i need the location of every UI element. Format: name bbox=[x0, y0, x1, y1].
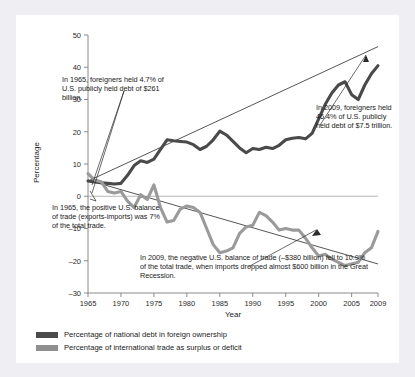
x-tick-label: 1965 bbox=[80, 299, 97, 308]
annotation-arrowheads bbox=[312, 55, 369, 236]
x-tick-label: 1975 bbox=[146, 299, 163, 308]
annotation-debt-1965: In 1965, foreigners held 4.7% of U.S. pu… bbox=[62, 75, 170, 103]
y-tick-label: 20 bbox=[73, 128, 81, 137]
legend-label-debt: Percentage of national debt in foreign o… bbox=[64, 330, 227, 339]
annotation-trade-2009: In 2009, the negative U.S. balance of tr… bbox=[140, 253, 372, 281]
legend-item: Percentage of international trade as sur… bbox=[36, 341, 386, 354]
legend-swatch-trade bbox=[36, 345, 58, 351]
y-tick-label: –30 bbox=[68, 289, 81, 298]
y-tick-label: 50 bbox=[73, 31, 81, 40]
x-tick-label: 2000 bbox=[310, 299, 327, 308]
y-tick-label: 10 bbox=[73, 160, 81, 169]
y-axis-title: Percentage bbox=[32, 142, 41, 183]
legend-item: Percentage of national debt in foreign o… bbox=[36, 328, 386, 341]
x-axis-ticks: 1965197019751980198519901995200020052009 bbox=[80, 293, 387, 308]
chart-plot: 50403020100–10–20–30 1965197019751980198… bbox=[16, 15, 399, 363]
chart-card: 50403020100–10–20–30 1965197019751980198… bbox=[16, 15, 399, 363]
x-tick-label: 1970 bbox=[113, 299, 130, 308]
x-tick-label: 1980 bbox=[179, 299, 196, 308]
y-tick-label: 0 bbox=[77, 192, 81, 201]
x-tick-label: 2009 bbox=[370, 299, 387, 308]
x-tick-label: 1985 bbox=[211, 299, 228, 308]
y-tick-label: –20 bbox=[68, 257, 81, 266]
y-axis-ticks: 50403020100–10–20–30 bbox=[68, 31, 88, 298]
y-tick-label: 40 bbox=[73, 63, 81, 72]
annotation-debt-2009: In 2009, foreigners held 46.4% of U.S. p… bbox=[316, 103, 400, 131]
legend-label-trade: Percentage of international trade as sur… bbox=[64, 343, 242, 352]
x-axis-title: Year bbox=[225, 310, 242, 319]
x-tick-label: 1995 bbox=[277, 299, 294, 308]
legend-swatch-debt bbox=[36, 332, 58, 338]
x-tick-label: 1990 bbox=[244, 299, 261, 308]
chart-legend: Percentage of national debt in foreign o… bbox=[36, 328, 386, 354]
annotation-trade-1965: In 1965, the positive U.S. balance of tr… bbox=[52, 203, 164, 231]
figure: 50403020100–10–20–30 1965197019751980198… bbox=[16, 15, 399, 363]
x-tick-label: 2005 bbox=[343, 299, 360, 308]
